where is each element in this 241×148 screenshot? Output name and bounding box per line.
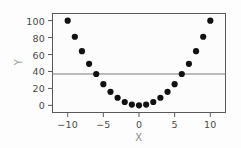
x-tick-label: −10 [57, 119, 78, 130]
data-point [93, 71, 99, 77]
x-axis-title: X [135, 132, 142, 143]
data-point [100, 81, 106, 87]
data-point [157, 95, 163, 101]
y-tick-label: 40 [4, 66, 45, 77]
data-point [129, 101, 135, 107]
y-tick-label: 20 [4, 83, 45, 94]
data-point [172, 81, 178, 87]
data-point [186, 61, 192, 67]
data-point [164, 89, 170, 95]
data-point [65, 18, 71, 24]
data-point [200, 34, 206, 40]
y-axis-title: Y [13, 59, 24, 66]
data-point [107, 89, 113, 95]
x-tick-label: 0 [136, 119, 142, 130]
x-tick-label: 5 [172, 119, 178, 130]
y-tick-label: 100 [4, 15, 45, 26]
data-point [193, 48, 199, 54]
y-tick-label: 80 [4, 32, 45, 43]
y-tick-label: 0 [4, 100, 45, 111]
y-tick-label: 60 [4, 49, 45, 60]
data-point [207, 18, 213, 24]
data-point [115, 95, 121, 101]
data-point [79, 48, 85, 54]
data-point [150, 99, 156, 105]
x-tick-label: −5 [96, 119, 110, 130]
data-point [179, 71, 185, 77]
data-point [72, 34, 78, 40]
scatter-chart-figure: 020406080100 −10−50510 X Y [0, 0, 241, 148]
data-point [86, 61, 92, 67]
data-point [143, 101, 149, 107]
data-point [122, 99, 128, 105]
x-tick-label: 10 [204, 119, 217, 130]
data-point [136, 102, 142, 108]
